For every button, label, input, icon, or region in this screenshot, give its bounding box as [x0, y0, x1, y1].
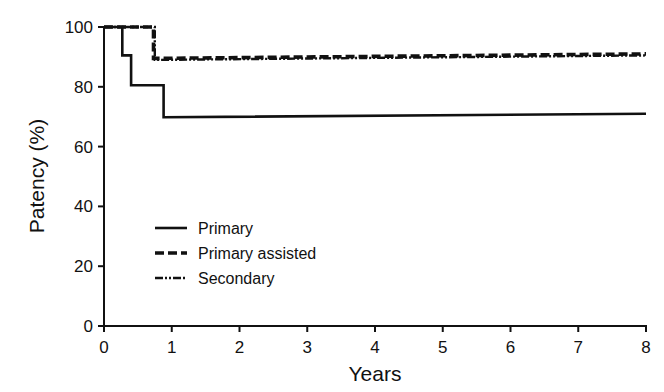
legend-label: Secondary — [198, 270, 275, 287]
y-tick-label: 40 — [74, 197, 93, 216]
x-tick-label: 4 — [370, 338, 379, 357]
kaplan-meier-chart: 020406080100012345678 PrimaryPrimary ass… — [0, 0, 664, 392]
y-tick-label: 80 — [74, 78, 93, 97]
y-tick-label: 20 — [74, 257, 93, 276]
x-tick-label: 8 — [641, 338, 650, 357]
y-axis-label: Patency (%) — [25, 119, 48, 233]
axes: 020406080100012345678 — [65, 18, 651, 357]
y-tick-label: 100 — [65, 18, 93, 37]
x-tick-label: 7 — [574, 338, 583, 357]
series-line-primary — [104, 27, 646, 117]
legend: PrimaryPrimary assistedSecondary — [155, 220, 316, 287]
legend-label: Primary — [198, 220, 253, 237]
x-axis-label: Years — [349, 362, 402, 385]
x-tick-label: 6 — [506, 338, 515, 357]
chart-svg: 020406080100012345678 PrimaryPrimary ass… — [0, 0, 664, 392]
x-tick-label: 5 — [438, 338, 447, 357]
legend-label: Primary assisted — [198, 245, 316, 262]
x-tick-label: 3 — [303, 338, 312, 357]
x-tick-label: 0 — [99, 338, 108, 357]
series-lines — [104, 27, 646, 117]
y-tick-label: 0 — [84, 317, 93, 336]
y-tick-label: 60 — [74, 138, 93, 157]
x-tick-label: 1 — [167, 338, 176, 357]
series-line-primary-assisted — [104, 27, 646, 58]
x-tick-label: 2 — [235, 338, 244, 357]
